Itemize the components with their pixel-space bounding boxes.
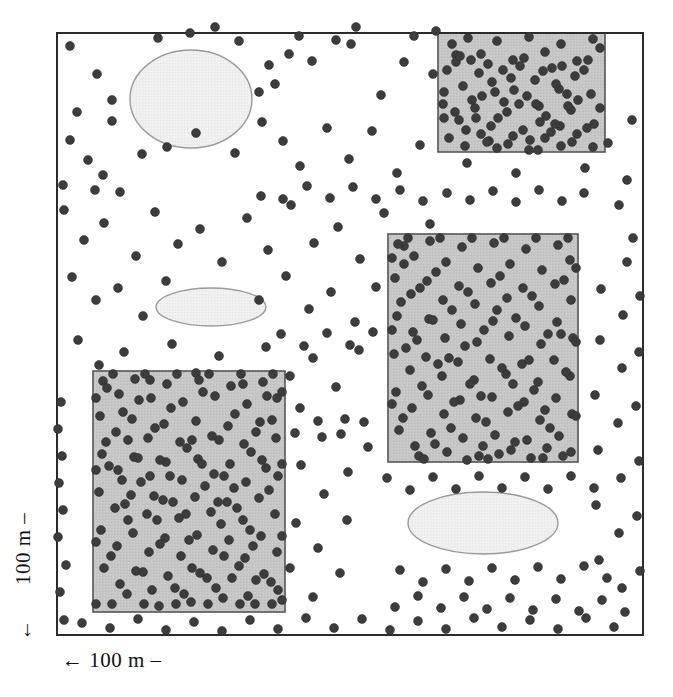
- data-point: [521, 473, 530, 482]
- data-point: [210, 470, 219, 479]
- data-point: [224, 422, 233, 431]
- data-point: [432, 268, 441, 277]
- data-point: [231, 149, 240, 158]
- data-point: [596, 336, 605, 345]
- data-point: [140, 600, 149, 609]
- data-point: [255, 296, 264, 305]
- data-point: [509, 56, 518, 65]
- data-point: [574, 96, 583, 105]
- data-point: [484, 60, 493, 69]
- data-point: [66, 136, 75, 145]
- data-point: [548, 64, 557, 73]
- data-point: [269, 370, 278, 379]
- data-point: [451, 108, 460, 117]
- x-axis-label: ← 100 m –: [62, 648, 162, 672]
- data-point: [580, 189, 589, 198]
- data-point: [504, 408, 513, 417]
- data-point: [441, 334, 450, 343]
- data-point: [277, 330, 286, 339]
- data-point: [212, 584, 221, 593]
- data-point: [511, 438, 520, 447]
- data-point: [151, 424, 160, 433]
- data-point: [138, 150, 147, 159]
- data-point: [618, 584, 627, 593]
- data-point: [581, 164, 590, 173]
- data-point: [199, 388, 208, 397]
- data-point: [274, 472, 283, 481]
- data-point: [262, 343, 271, 352]
- data-point: [575, 607, 584, 616]
- data-point: [618, 364, 627, 373]
- data-point: [145, 548, 154, 557]
- data-point: [356, 255, 365, 264]
- data-point: [580, 66, 589, 75]
- data-point: [257, 192, 266, 201]
- data-point: [445, 354, 454, 363]
- data-point: [262, 464, 271, 473]
- data-point: [408, 404, 417, 413]
- data-point: [512, 314, 521, 323]
- data-point: [225, 536, 234, 545]
- data-point: [390, 350, 399, 359]
- data-point: [160, 420, 169, 429]
- data-point: [162, 277, 171, 286]
- data-point: [522, 245, 531, 254]
- data-point: [595, 556, 604, 565]
- data-point: [132, 252, 141, 261]
- data-point: [558, 62, 567, 71]
- data-point: [192, 129, 201, 138]
- data-point: [148, 586, 157, 595]
- data-point: [292, 519, 301, 528]
- data-point: [404, 234, 413, 243]
- data-point: [454, 358, 463, 367]
- data-point: [66, 42, 75, 51]
- data-point: [193, 531, 202, 540]
- data-point: [55, 479, 64, 488]
- data-point: [434, 360, 443, 369]
- data-point: [515, 100, 524, 109]
- data-point: [567, 472, 576, 481]
- data-point: [196, 225, 205, 234]
- data-point: [432, 27, 441, 36]
- data-point: [525, 33, 534, 42]
- data-point: [503, 108, 512, 117]
- data-point: [493, 37, 502, 46]
- data-point: [397, 298, 406, 307]
- data-point: [486, 355, 495, 364]
- data-point: [535, 186, 544, 195]
- data-point: [610, 623, 619, 632]
- data-point: [355, 346, 364, 355]
- data-point: [450, 398, 459, 407]
- data-point: [426, 220, 435, 229]
- data-point: [300, 342, 309, 351]
- data-point: [305, 305, 314, 314]
- data-point: [633, 512, 642, 521]
- data-point: [438, 372, 447, 381]
- data-point: [368, 127, 377, 136]
- region-ellipse-lower-right-clearing: [408, 492, 558, 554]
- data-point: [173, 370, 182, 379]
- data-point: [507, 74, 516, 83]
- data-point: [279, 137, 288, 146]
- data-point: [506, 260, 515, 269]
- data-point: [274, 625, 283, 634]
- data-point: [191, 493, 200, 502]
- data-point: [92, 538, 101, 547]
- data-point: [386, 626, 395, 635]
- data-point: [255, 88, 264, 97]
- data-point: [621, 608, 630, 617]
- data-point: [258, 456, 267, 465]
- data-point: [525, 146, 534, 155]
- data-point: [459, 82, 468, 91]
- data-point: [282, 272, 291, 281]
- data-point: [297, 461, 306, 470]
- data-point: [394, 240, 403, 249]
- data-point: [246, 616, 255, 625]
- data-point: [265, 486, 274, 495]
- data-point: [598, 596, 607, 605]
- data-point: [509, 380, 518, 389]
- data-point: [507, 446, 516, 455]
- data-point: [318, 433, 327, 442]
- data-point: [477, 392, 486, 401]
- data-point: [551, 280, 560, 289]
